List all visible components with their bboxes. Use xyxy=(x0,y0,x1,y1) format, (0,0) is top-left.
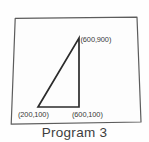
figure-caption: Program 3 xyxy=(0,124,149,141)
vertex-label-bottom-right: (600,100) xyxy=(72,110,103,119)
drawing-border xyxy=(11,17,141,124)
vertex-label-bottom-left: (200,100) xyxy=(18,110,49,119)
program-figure-drawing: (600,900) (200,100) (600,100) xyxy=(0,0,149,142)
figure-container: (600,900) (200,100) (600,100) Program 3 xyxy=(0,0,149,142)
vertex-label-apex: (600,900) xyxy=(81,35,112,44)
